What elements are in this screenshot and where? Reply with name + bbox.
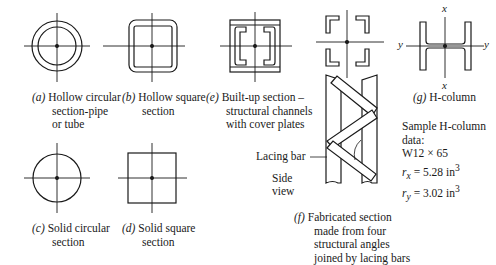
hollow-circular-section-drawing [24,13,90,82]
hollow-square-section-drawing [103,13,185,82]
caption-d: (d) Solid square section [122,222,195,249]
side-view-label-line2: view [272,185,294,199]
rx-value: rx = 5.28 in3 [402,161,486,183]
sample-data-block: Sample H-column data: W12 × 65 rx = 5.28… [402,120,486,204]
h-column-drawing [406,17,484,78]
side-view-label-line1: Side [272,172,292,186]
fabricated-section-top-view [316,10,384,78]
caption-f: (f) Fabricated section made from four st… [294,211,410,265]
fabricated-section-side-view [326,75,377,183]
caption-g: (g) H-column [413,91,476,105]
h-column-axis-x-top: x [442,2,447,14]
h-column-axis-y-right: y [484,38,489,50]
solid-square-section-drawing [118,143,187,213]
solid-circular-section-drawing [24,143,90,213]
ry-value: ry = 3.02 in3 [402,182,486,204]
h-column-axis-y-left: y [398,38,403,50]
h-column-axis-x-bottom: x [442,79,447,91]
lacing-bar-label: Lacing bar [256,150,306,164]
caption-e: (e) Built-up section – structural channe… [206,91,313,132]
caption-b: (b) Hollow square section [122,91,206,118]
caption-c: (c) Solid circular section [32,222,110,249]
caption-a: (a) Hollow circular section-pipe or tube [32,91,121,132]
built-up-section-drawing [220,12,292,82]
